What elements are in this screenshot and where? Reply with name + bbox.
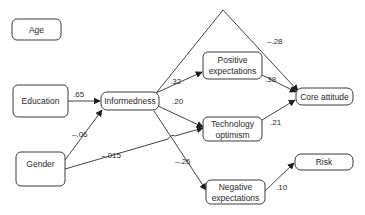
edge-informedness-technology-optimism [158,106,203,127]
node-positive-expectations: Positive expectations [203,52,262,79]
coef-positive-expectations-core-attitude: .38 [265,75,277,84]
node-education-label: Education [22,96,60,106]
edge-technology-optimism-core-attitude [262,100,295,120]
node-core-attitude-label: Core attitude [300,92,349,102]
node-education: Education [13,85,68,117]
edge-informedness-negative-expectations [154,111,206,190]
node-negative-expectations: Negative expectations [206,180,265,204]
node-negative-expectations-line2: expectations [212,193,260,203]
node-core-attitude: Core attitude [296,88,353,105]
coef-education-informedness: .65 [73,90,85,99]
node-risk: Risk [295,154,353,170]
node-technology-optimism: Technology optimism [203,117,262,141]
path-diagram: .65 –.06 –.015 .32 .20 –.26 –.28 .38 .21… [0,0,365,215]
coef-informedness-negative-expectations: –.26 [175,157,191,166]
coef-negative-expectations-risk: .10 [276,183,288,192]
node-gender: Gender [16,152,65,186]
coef-technology-optimism-core-attitude: .21 [270,118,282,127]
coef-informedness-core-attitude: –.28 [267,37,283,46]
coef-gender-informedness: –.06 [72,130,88,139]
node-negative-expectations-line1: Negative [219,182,253,192]
node-gender-label: Gender [26,159,55,169]
node-technology-optimism-line1: Technology [211,119,255,129]
node-age: Age [12,19,61,40]
node-informedness-label: Informedness [104,96,156,106]
node-informedness: Informedness [101,92,159,110]
node-age-label: Age [29,25,44,35]
coef-informedness-technology-optimism: .20 [172,97,184,106]
coef-gender-technology-optimism: –.015 [101,151,122,160]
node-risk-label: Risk [316,157,333,167]
node-positive-expectations-line1: Positive [218,55,248,65]
node-positive-expectations-line2: expectations [209,66,257,76]
coef-informedness-positive-expectations: .32 [170,77,182,86]
node-technology-optimism-line2: optimism [215,130,249,140]
